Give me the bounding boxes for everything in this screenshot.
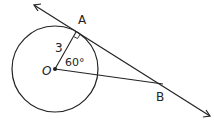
label-A: A — [78, 13, 87, 27]
label-B: B — [156, 90, 164, 104]
label-angle: 60° — [65, 56, 85, 69]
center-point-O — [53, 67, 57, 71]
label-O: O — [42, 64, 51, 78]
label-radius-length: 3 — [55, 41, 63, 55]
tangent-circle-diagram: A B O 3 60° — [0, 0, 214, 124]
